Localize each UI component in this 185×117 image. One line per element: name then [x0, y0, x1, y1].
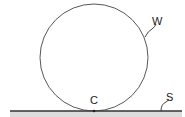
contact-point-label: C [90, 94, 98, 106]
ground-shading [10, 111, 182, 117]
contact-point-dot [93, 110, 96, 113]
wheel-label: W [152, 15, 163, 27]
surface-label: S [166, 91, 173, 103]
wheel-on-surface-diagram: W C S [0, 0, 185, 117]
